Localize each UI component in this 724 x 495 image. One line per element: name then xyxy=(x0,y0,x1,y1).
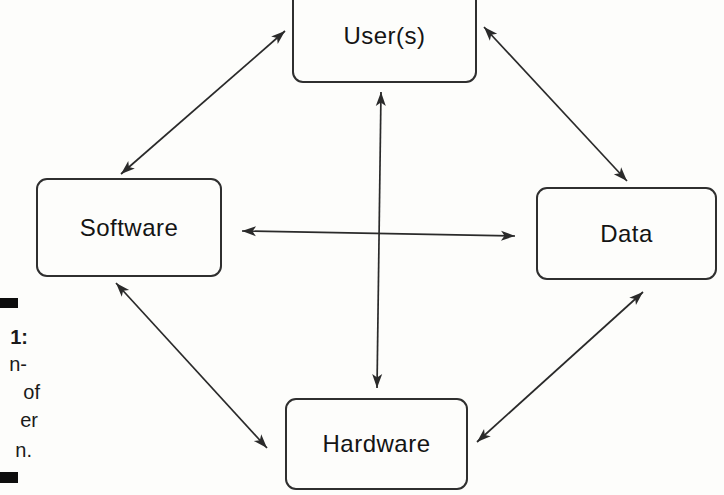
caption-fragment: n. xyxy=(15,440,32,460)
arrow-users-data xyxy=(484,27,627,181)
node-software: Software xyxy=(36,178,222,277)
caption-fragment: er xyxy=(20,410,38,430)
arrow-software-hardware xyxy=(116,283,267,448)
node-hardware-label: Hardware xyxy=(322,430,430,458)
arrow-users-hardware xyxy=(372,92,386,388)
arrow-users-software xyxy=(121,31,285,174)
caption-fragment: n- xyxy=(9,354,27,374)
node-software-label: Software xyxy=(80,214,179,242)
node-users-label: User(s) xyxy=(343,22,425,50)
caption-rule-bottom xyxy=(0,472,18,483)
caption-fragment: of xyxy=(23,382,40,402)
arrow-software-data xyxy=(242,226,515,240)
caption-fragment: 1: xyxy=(10,327,28,347)
caption-rule-top xyxy=(0,298,18,308)
arrow-data-hardware xyxy=(477,292,643,442)
node-data: Data xyxy=(536,187,717,280)
node-data-label: Data xyxy=(600,220,653,248)
node-users: User(s) xyxy=(292,0,477,83)
node-hardware: Hardware xyxy=(285,398,468,490)
diagram-canvas: User(s) Software Data Hardware 1: n- of … xyxy=(0,0,724,495)
